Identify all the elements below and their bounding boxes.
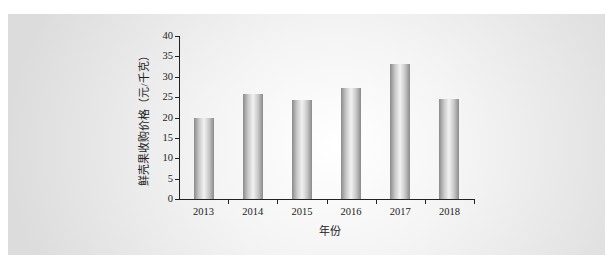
y-tick-label: 5 [153,173,173,185]
y-tick [175,97,179,98]
y-axis-title-text: 鲜壳果收购价格（元/千克） [135,50,151,185]
bar-2014 [243,94,263,199]
x-axis-title: 年份 [300,222,360,238]
y-axis [179,36,180,200]
x-tick-label: 2013 [184,206,224,217]
y-tick-label: 10 [153,152,173,164]
y-tick [175,118,179,119]
y-tick [175,199,179,200]
x-tick [228,200,229,204]
y-tick [175,138,179,139]
y-tick-label: 15 [153,132,173,144]
x-tick [474,200,475,204]
y-tick-label: 35 [153,50,173,62]
x-tick [376,200,377,204]
x-tick [425,200,426,204]
y-tick [175,179,179,180]
y-tick-label: 40 [153,30,173,42]
bar-2016 [341,88,361,199]
plot-area: 0510152025303540201320142015201620172018 [179,36,474,199]
x-tick [327,200,328,204]
y-tick [175,36,179,37]
y-tick-label: 30 [153,71,173,83]
x-tick [277,200,278,204]
y-tick-label: 0 [153,193,173,205]
x-tick-label: 2016 [331,206,371,217]
bar-2017 [390,64,410,199]
x-tick-label: 2018 [429,206,469,217]
bar-2018 [439,99,459,199]
y-tick [175,158,179,159]
y-tick [175,56,179,57]
x-tick-label: 2017 [380,206,420,217]
bar-2013 [194,118,214,200]
y-tick-label: 25 [153,91,173,103]
bar-2015 [292,100,312,199]
x-tick-label: 2015 [282,206,322,217]
y-tick-label: 20 [153,112,173,124]
y-tick [175,77,179,78]
x-tick-label: 2014 [233,206,273,217]
